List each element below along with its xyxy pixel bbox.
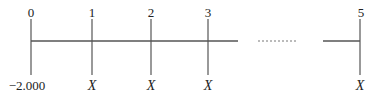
- period-label-2: 2: [148, 6, 155, 19]
- period-label-5: 5: [358, 6, 365, 19]
- cash-flow-0: −2.000: [9, 79, 46, 92]
- period-label-0: 0: [28, 6, 35, 19]
- cash-flow-2: X: [147, 79, 156, 92]
- timeline-lines: [0, 0, 376, 98]
- period-label-1: 1: [89, 6, 96, 19]
- cash-flow-5: X: [356, 79, 365, 92]
- cash-flow-timeline: 0 1 2 3 5 −2.000 X X X X: [0, 0, 376, 98]
- period-label-3: 3: [205, 6, 212, 19]
- cash-flow-3: X: [204, 79, 213, 92]
- cash-flow-1: X: [88, 79, 97, 92]
